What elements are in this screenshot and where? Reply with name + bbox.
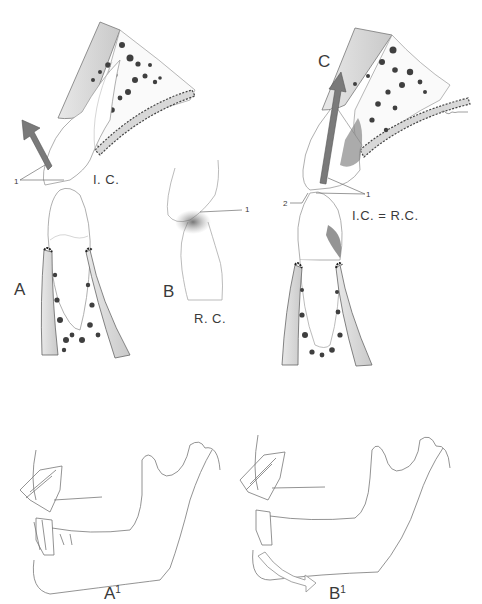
panel-a1-label: A1 [104,584,121,604]
panel-b-caption: R. C. [194,311,226,326]
rotation-arrow [258,552,316,592]
panel-c-callout-1: 1 [366,190,370,199]
panel-c-callout-2: 2 [283,199,287,208]
panel-c-label: C [318,52,330,72]
panel-b-drawing [167,160,242,300]
panel-b1-label: B1 [329,584,346,604]
panel-a-drawing [20,22,195,358]
panel-a-caption: I. C. [93,172,119,187]
panel-a-callout-1: 1 [14,177,18,186]
panel-c-caption: I.C. = R.C. [352,208,419,223]
panel-b1-drawing [240,435,450,580]
panel-a-label: A [14,280,25,300]
panel-a1-drawing [20,442,220,594]
panel-b-label: B [163,282,174,302]
illustration-canvas [0,0,482,604]
panel-c-drawing [282,28,470,366]
panel-b-callout-1: 1 [245,205,249,214]
